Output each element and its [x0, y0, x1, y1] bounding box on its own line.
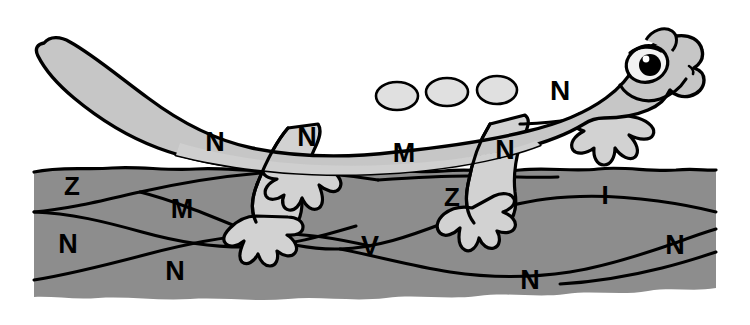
letter-n-ground-low: N — [165, 256, 185, 286]
salamander-scene: N N M N N Z M N N V Z I N N — [0, 0, 750, 325]
letter-m-belly: M — [393, 138, 416, 168]
back-spot-2 — [426, 78, 468, 106]
letter-m-ground: M — [171, 194, 194, 224]
eye-highlight — [643, 56, 650, 63]
eye-pupil — [639, 54, 661, 76]
letter-n-hind-leg: N — [297, 122, 317, 152]
letter-v-ground: V — [361, 231, 379, 261]
letter-n-tail: N — [205, 127, 225, 157]
letter-n-ground-right: N — [665, 230, 685, 260]
back-spot-1 — [376, 82, 418, 110]
letter-n-ground-left: N — [58, 229, 78, 259]
letter-n-front-leg: N — [495, 135, 515, 165]
letter-z-ground-mid: Z — [444, 182, 460, 212]
letter-n-back: N — [550, 75, 570, 106]
back-spots — [376, 76, 517, 110]
letter-n-ground-center: N — [520, 265, 540, 295]
letter-z-ground-left: Z — [64, 171, 80, 201]
illustration-canvas: N N M N N Z M N N V Z I N N — [0, 0, 750, 325]
letter-i-ground: I — [601, 180, 608, 210]
back-spot-3 — [477, 76, 517, 104]
